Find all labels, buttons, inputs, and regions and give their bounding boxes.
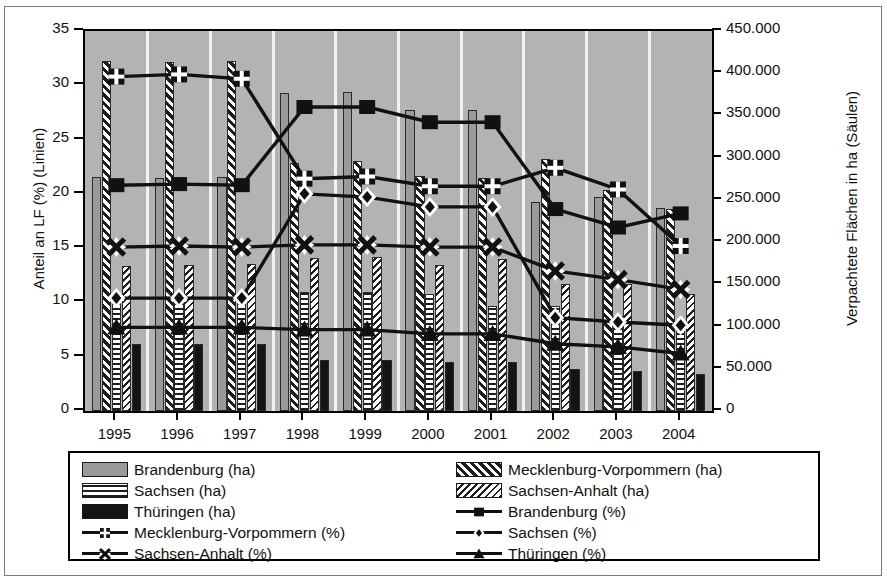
marker-plus-square: [422, 178, 438, 194]
x-tick-label: 1995: [84, 425, 144, 442]
y-axis-label-right: Verpachtete Flächen in ha (Säulen): [843, 44, 860, 374]
legend-item[interactable]: Thüringen (%): [456, 543, 723, 564]
legend-marker-square: [456, 504, 502, 519]
marker-diamond: [170, 288, 188, 308]
marker-plus-square: [108, 69, 124, 85]
marker-square: [485, 115, 501, 129]
y-tick-right: [712, 239, 721, 241]
y-tick-label-left: 25: [9, 128, 69, 145]
y-tick-label-left: 20: [9, 182, 69, 199]
y-tick-left: [74, 354, 83, 356]
y-tick-left: [74, 28, 83, 30]
x-tick-label: 1996: [147, 425, 207, 442]
marker-diamond: [107, 288, 125, 308]
y-tick-label-right: 350.000: [726, 103, 816, 120]
legend-item[interactable]: Sachsen-Anhalt (ha): [456, 480, 723, 501]
legend-line-sample: [456, 504, 502, 519]
legend-line-sample: [456, 546, 502, 561]
legend-item[interactable]: Mecklenburg-Vorpommern (ha): [456, 459, 723, 480]
legend-item-label: Mecklenburg-Vorpommern (%): [134, 525, 345, 540]
marker-diamond: [484, 197, 502, 217]
x-tick: [239, 411, 241, 420]
legend-marker-triangle: [456, 546, 502, 561]
y-tick-label-right: 400.000: [726, 61, 816, 78]
line-series-layer: [85, 31, 712, 411]
legend-swatch-solid-gray: [82, 462, 128, 477]
x-tick-label: 1998: [272, 425, 332, 442]
legend-swatch-diagonal-hatch: [456, 462, 502, 477]
legend-swatch-dense-diagonal: [456, 483, 502, 498]
marker-triangle: [473, 548, 484, 558]
x-tick-label: 1999: [335, 425, 395, 442]
legend-item[interactable]: Thüringen (ha): [82, 501, 345, 522]
y-tick-label-right: 200.000: [726, 230, 816, 247]
y-tick-label-left: 5: [9, 345, 69, 362]
chart-legend: Brandenburg (ha)Sachsen (ha)Thüringen (h…: [68, 451, 820, 561]
x-tick: [427, 411, 429, 420]
marker-diamond: [295, 184, 313, 204]
y-tick-label-right: 450.000: [726, 19, 816, 36]
y-tick-label-left: 30: [9, 73, 69, 90]
y-tick-label-left: 0: [9, 399, 69, 416]
line-th-ringen-: [116, 327, 680, 353]
marker-square: [422, 115, 438, 129]
line-sachsen-anhalt-: [116, 245, 680, 290]
legend-item-label: Thüringen (%): [508, 546, 606, 561]
legend-item-label: Brandenburg (ha): [134, 462, 256, 477]
y-tick-label-left: 15: [9, 236, 69, 253]
y-tick-right: [712, 70, 721, 72]
legend-line-sample: [82, 546, 128, 561]
marker-diamond: [672, 315, 690, 335]
legend-item[interactable]: Brandenburg (ha): [82, 459, 345, 480]
marker-diamond: [421, 197, 439, 217]
marker-square: [474, 507, 484, 516]
chart-page: Anteil an LF (%) (Linien) Verpachtete Fl…: [0, 0, 887, 582]
y-tick-left: [74, 137, 83, 139]
marker-plus-square: [234, 71, 250, 87]
x-tick: [301, 411, 303, 420]
x-tick-label: 2002: [523, 425, 583, 442]
marker-square: [610, 221, 626, 235]
x-tick: [113, 411, 115, 420]
marker-plus-square: [100, 528, 110, 538]
y-tick-right: [712, 155, 721, 157]
marker-plus-square: [610, 182, 626, 198]
marker-diamond: [358, 187, 376, 207]
marker-star-x: [357, 235, 377, 255]
legend-item[interactable]: Sachsen-Anhalt (%): [82, 543, 345, 564]
legend-line-sample: [82, 525, 128, 540]
y-tick-label-left: 35: [9, 19, 69, 36]
marker-star-x: [671, 279, 691, 299]
y-tick-label-right: 100.000: [726, 315, 816, 332]
y-tick-right: [712, 366, 721, 368]
marker-star-x: [169, 236, 189, 256]
marker-square: [547, 202, 563, 216]
x-tick: [552, 411, 554, 420]
legend-swatch-solid-black: [82, 504, 128, 519]
legend-item[interactable]: Sachsen (ha): [82, 480, 345, 501]
x-tick-label: 2004: [649, 425, 709, 442]
y-tick-right: [712, 281, 721, 283]
legend-item[interactable]: Brandenburg (%): [456, 501, 723, 522]
plot-area: [83, 29, 714, 413]
legend-item[interactable]: Sachsen (%): [456, 522, 723, 543]
marker-plus-square: [547, 160, 563, 176]
x-tick: [176, 411, 178, 420]
marker-square: [296, 100, 312, 114]
y-tick-left: [74, 82, 83, 84]
marker-square: [234, 178, 250, 192]
line-brandenburg-: [116, 107, 680, 228]
y-tick-left: [74, 408, 83, 410]
legend-item-label: Sachsen-Anhalt (ha): [508, 483, 649, 498]
marker-plus-square: [673, 238, 689, 254]
y-tick-left: [74, 245, 83, 247]
legend-item[interactable]: Mecklenburg-Vorpommern (%): [82, 522, 345, 543]
marker-square: [673, 206, 689, 220]
y-tick-label-right: 50.000: [726, 357, 816, 374]
marker-plus-square: [171, 66, 187, 82]
marker-star-x: [99, 547, 111, 559]
x-tick: [615, 411, 617, 420]
y-tick-label-right: 300.000: [726, 146, 816, 163]
x-tick-label: 2003: [586, 425, 646, 442]
y-tick-label-right: 150.000: [726, 272, 816, 289]
